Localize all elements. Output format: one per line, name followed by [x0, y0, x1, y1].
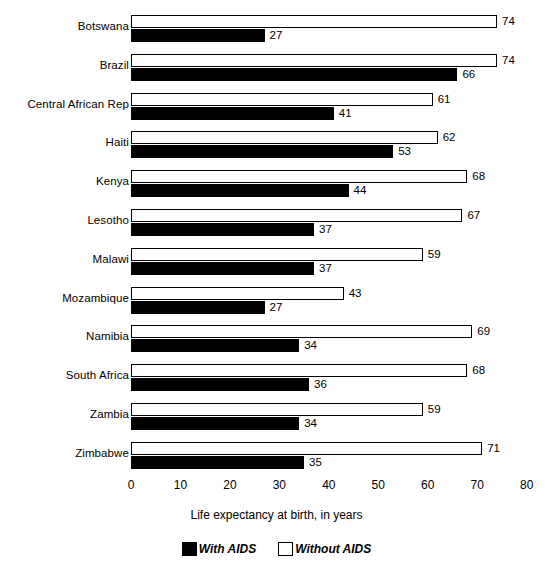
- bar-value-without-aids: 71: [487, 442, 500, 455]
- bar-row: Malawi5937: [0, 244, 553, 282]
- bar-with-aids: [131, 29, 265, 42]
- bar-row: South Africa6836: [0, 360, 553, 398]
- hollow-square-icon: [278, 542, 293, 556]
- bar-value-with-aids: 66: [462, 68, 475, 81]
- bar-without-aids: [131, 15, 497, 28]
- category-label: Kenya: [0, 175, 129, 188]
- bar-value-without-aids: 59: [428, 403, 441, 416]
- bar-row: Zambia5934: [0, 399, 553, 437]
- x-axis-title: Life expectancy at birth, in years: [0, 508, 553, 522]
- bar-value-with-aids: 53: [398, 145, 411, 158]
- bar-with-aids: [131, 456, 304, 469]
- category-label: Central African Rep: [0, 98, 129, 111]
- bar-without-aids: [131, 170, 467, 183]
- bar-with-aids: [131, 339, 299, 352]
- bar-value-without-aids: 67: [467, 209, 480, 222]
- category-label: Lesotho: [0, 214, 129, 227]
- bar-value-without-aids: 74: [502, 54, 515, 67]
- category-label: Botswana: [0, 20, 129, 33]
- bar-value-with-aids: 35: [309, 456, 322, 469]
- filled-square-icon: [182, 542, 197, 556]
- bar-without-aids: [131, 287, 344, 300]
- category-label: Mozambique: [0, 292, 129, 305]
- bar-value-without-aids: 59: [428, 248, 441, 261]
- x-tick-label: 50: [358, 478, 398, 492]
- category-label: Zimbabwe: [0, 447, 129, 460]
- bar-value-without-aids: 68: [472, 364, 485, 377]
- bar-with-aids: [131, 145, 393, 158]
- bar-value-without-aids: 43: [349, 287, 362, 300]
- bar-row: Lesotho6737: [0, 205, 553, 243]
- bar-row: Zimbabwe7135: [0, 438, 553, 476]
- bar-row: Haiti6253: [0, 127, 553, 165]
- bar-value-with-aids: 27: [270, 29, 283, 42]
- category-label: Zambia: [0, 408, 129, 421]
- bar-value-without-aids: 69: [477, 325, 490, 338]
- category-label: Haiti: [0, 136, 129, 149]
- bar-value-without-aids: 68: [472, 170, 485, 183]
- bar-with-aids: [131, 417, 299, 430]
- category-label: Brazil: [0, 59, 129, 72]
- bar-row: Brazil7466: [0, 50, 553, 88]
- bar-with-aids: [131, 68, 457, 81]
- x-tick-label: 30: [259, 478, 299, 492]
- legend-item: With AIDS: [182, 542, 256, 556]
- bar-value-with-aids: 36: [314, 378, 327, 391]
- bar-row: Central African Rep6141: [0, 89, 553, 127]
- bar-without-aids: [131, 54, 497, 67]
- bar-value-without-aids: 74: [502, 15, 515, 28]
- bar-without-aids: [131, 364, 467, 377]
- bar-without-aids: [131, 325, 472, 338]
- bar-value-with-aids: 37: [319, 223, 332, 236]
- bar-with-aids: [131, 378, 309, 391]
- bar-row: Botswana7427: [0, 11, 553, 49]
- bar-without-aids: [131, 248, 423, 261]
- chart-legend: With AIDSWithout AIDS: [0, 542, 553, 556]
- bar-with-aids: [131, 107, 334, 120]
- bar-value-with-aids: 37: [319, 262, 332, 275]
- x-tick-label: 0: [111, 478, 151, 492]
- bar-value-without-aids: 62: [443, 131, 456, 144]
- bar-row: Kenya6844: [0, 166, 553, 204]
- bar-value-with-aids: 44: [354, 184, 367, 197]
- bar-value-without-aids: 61: [438, 93, 451, 106]
- category-label: Namibia: [0, 330, 129, 343]
- x-tick-label: 70: [457, 478, 497, 492]
- x-tick-label: 80: [507, 478, 547, 492]
- bar-value-with-aids: 34: [304, 417, 317, 430]
- bar-with-aids: [131, 223, 314, 236]
- legend-label: Without AIDS: [295, 542, 371, 556]
- category-label: South Africa: [0, 369, 129, 382]
- legend-label: With AIDS: [199, 542, 256, 556]
- x-tick-label: 20: [210, 478, 250, 492]
- x-tick-label: 10: [160, 478, 200, 492]
- bar-with-aids: [131, 184, 349, 197]
- bar-row: Namibia6934: [0, 321, 553, 359]
- bar-row: Mozambique4327: [0, 283, 553, 321]
- plot-area: Botswana7427Brazil7466Central African Re…: [0, 0, 553, 476]
- bar-without-aids: [131, 93, 433, 106]
- bar-value-with-aids: 41: [339, 107, 352, 120]
- bar-without-aids: [131, 131, 438, 144]
- bar-without-aids: [131, 209, 462, 222]
- bar-without-aids: [131, 442, 482, 455]
- bar-with-aids: [131, 301, 265, 314]
- life-expectancy-bar-chart: Botswana7427Brazil7466Central African Re…: [0, 0, 553, 576]
- bar-without-aids: [131, 403, 423, 416]
- bar-value-with-aids: 34: [304, 339, 317, 352]
- x-axis: 01020304050607080: [0, 478, 553, 496]
- x-tick-label: 60: [408, 478, 448, 492]
- bar-with-aids: [131, 262, 314, 275]
- x-tick-label: 40: [309, 478, 349, 492]
- category-label: Malawi: [0, 253, 129, 266]
- legend-item: Without AIDS: [278, 542, 371, 556]
- bar-value-with-aids: 27: [270, 301, 283, 314]
